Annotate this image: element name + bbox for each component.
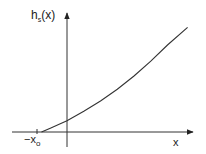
xtick-label-minus-x0: −xo: [24, 133, 41, 148]
ylabel: hs(x): [31, 8, 55, 23]
series-line-hs: [42, 27, 188, 132]
xlabel: x: [173, 136, 179, 148]
chart: hs(x) x −xo: [0, 0, 206, 154]
